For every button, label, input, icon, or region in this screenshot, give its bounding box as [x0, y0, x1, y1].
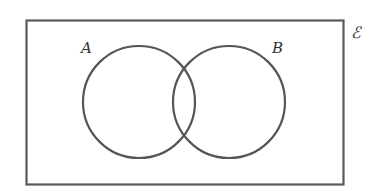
set-a-label: A [79, 39, 92, 57]
universal-set-rectangle [27, 21, 344, 185]
set-a-circle [83, 46, 195, 158]
set-b-label: B [271, 39, 283, 57]
venn-diagram: A B ℰ [0, 0, 384, 191]
set-b-circle [173, 46, 285, 158]
universal-set-label: ℰ [351, 23, 363, 42]
